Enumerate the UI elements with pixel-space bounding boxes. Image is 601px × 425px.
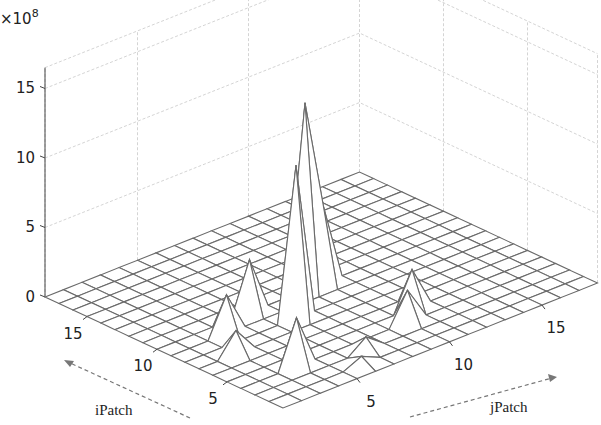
jpatch-axis-label: jPatch [489,399,528,415]
z-tick-label: 10 [16,149,35,167]
z-tick-label: 0 [25,288,35,306]
jpatch-tick-mark [357,379,360,383]
ipatch-tick-mark [153,349,157,352]
jpatch-tick-label: 10 [454,356,473,374]
z-tick-mark [40,86,45,88]
jpatch-tick-label: 5 [366,393,376,411]
z-tick-mark [40,156,45,158]
z-tick-mark [40,225,45,227]
z-multiplier-label: ×108 [0,7,39,28]
ipatch-tick-mark [83,317,87,320]
surface-mesh [45,103,598,408]
z-tick-mark [40,295,45,297]
surface-plot: 051015 ×108 iPatch jPatch 5101551015 [0,0,601,425]
z-tick-label: 15 [16,79,35,97]
back-wall-gridline-z [45,0,598,88]
jpatch-tick-mark [542,305,545,309]
ipatch-axis-label: iPatch [95,402,133,418]
back-wall-gridline-z [45,33,598,158]
jpatch-tick-label: 15 [546,319,565,337]
jpatch-tick-mark [450,342,453,346]
jpatch-arrowhead [548,374,557,382]
z-tick-label: 5 [25,218,35,236]
back-wall-top-edge [45,0,598,68]
ipatch-tick-label: 5 [208,390,218,408]
ipatch-tick-label: 15 [63,325,82,343]
ipatch-tick-label: 10 [133,357,152,375]
ipatch-tick-mark [223,382,227,385]
jpatch-direction-arrow [410,378,552,417]
z-axis: 051015 [16,68,45,306]
